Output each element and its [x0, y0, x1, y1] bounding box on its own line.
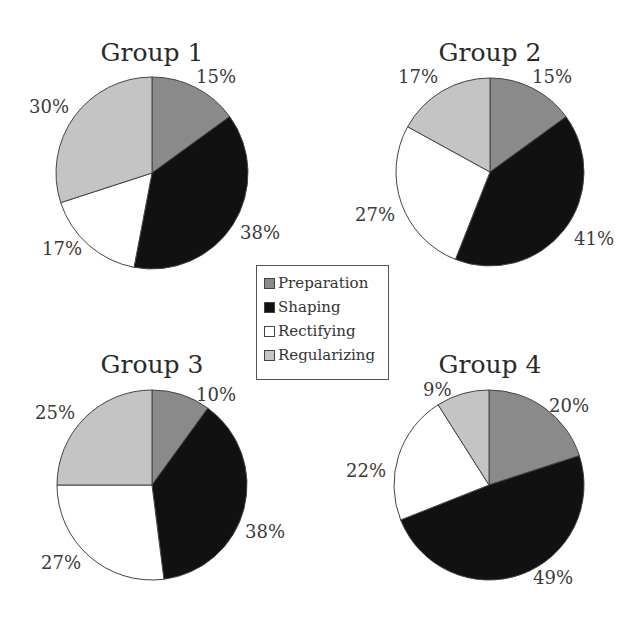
pie-group-3: [57, 390, 247, 580]
slice-label: 22%: [346, 460, 386, 481]
slice-label: 27%: [355, 204, 395, 225]
legend-swatch-icon: [264, 302, 275, 313]
legend-label: Shaping: [278, 298, 341, 316]
slice-label: 49%: [533, 567, 573, 588]
legend-item-rectifying: Rectifying: [264, 322, 355, 340]
legend-label: Preparation: [278, 274, 368, 292]
slice-label: 27%: [41, 552, 81, 573]
pie-group-1: [56, 77, 248, 269]
slice-label: 15%: [196, 66, 236, 87]
slice-label: 38%: [240, 222, 280, 243]
slice-label: 17%: [398, 66, 438, 87]
chart-title-group-1: Group 1: [101, 38, 204, 67]
slice-label: 20%: [549, 395, 589, 416]
chart-title-group-3: Group 3: [101, 350, 204, 379]
chart-title-group-4: Group 4: [439, 350, 542, 379]
slice-label: 25%: [35, 402, 75, 423]
pie-group-4: [394, 390, 584, 580]
legend-swatch-icon: [264, 350, 275, 361]
chart-title-group-2: Group 2: [439, 38, 542, 67]
slice-label: 15%: [532, 66, 572, 87]
legend-label: Regularizing: [278, 346, 375, 364]
slice-label: 30%: [29, 96, 69, 117]
slice-label: 10%: [196, 384, 236, 405]
legend-item-shaping: Shaping: [264, 298, 341, 316]
legend-item-preparation: Preparation: [264, 274, 368, 292]
legend-swatch-icon: [264, 326, 275, 337]
slice-label: 41%: [574, 228, 614, 249]
slice-label: 9%: [423, 379, 452, 400]
legend-item-regularizing: Regularizing: [264, 346, 375, 364]
pie-group-2: [396, 78, 584, 266]
legend-label: Rectifying: [278, 322, 355, 340]
legend: Preparation Shaping Rectifying Regulariz…: [256, 265, 389, 380]
slice-label: 17%: [42, 238, 82, 259]
slice-label: 38%: [245, 521, 285, 542]
legend-swatch-icon: [264, 278, 275, 289]
